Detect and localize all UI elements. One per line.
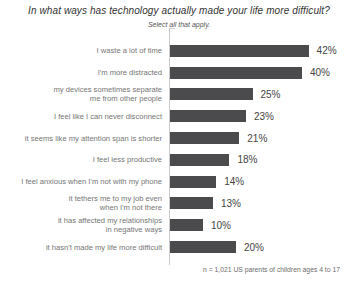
- value-label: 21%: [247, 133, 267, 144]
- bar-wrap: 40%: [170, 67, 358, 79]
- sample-size-footnote: n = 1,021 US parents of children ages 4 …: [0, 266, 340, 273]
- bar: [170, 88, 253, 100]
- value-label: 42%: [317, 45, 337, 56]
- bar-wrap: 13%: [170, 197, 358, 209]
- value-label: 10%: [211, 220, 231, 231]
- chart-row: I'm more distracted 40%: [0, 62, 358, 84]
- category-label: I feel less productive: [0, 155, 170, 164]
- bar: [170, 197, 213, 209]
- category-label: it seems like my attention span is short…: [0, 134, 170, 143]
- value-label: 14%: [224, 176, 244, 187]
- chart-row: it hasn't made my life more difficult 20…: [0, 236, 358, 258]
- chart-page: In what ways has technology actually mad…: [0, 0, 358, 294]
- chart-row: I waste a lot of time 42%: [0, 40, 358, 62]
- bar-wrap: 42%: [170, 45, 358, 57]
- value-label: 20%: [244, 242, 264, 253]
- bar-wrap: 18%: [170, 154, 358, 166]
- chart-subtitle: Select all that apply.: [0, 21, 358, 28]
- chart-row: I feel anxious when I'm not with my phon…: [0, 171, 358, 193]
- bar: [170, 154, 229, 166]
- category-label: I feel anxious when I'm not with my phon…: [0, 177, 170, 186]
- bar: [170, 176, 216, 188]
- category-label: it tethers me to my job even when I'm no…: [0, 194, 170, 212]
- bar: [170, 132, 239, 144]
- category-label: I waste a lot of time: [0, 46, 170, 55]
- bar-wrap: 23%: [170, 110, 358, 122]
- bar: [170, 67, 302, 79]
- bar-wrap: 10%: [170, 219, 358, 231]
- bar: [170, 110, 246, 122]
- bar: [170, 241, 236, 253]
- bar-wrap: 25%: [170, 88, 358, 100]
- chart-row: my devices sometimes separate me from ot…: [0, 84, 358, 106]
- chart-title: In what ways has technology actually mad…: [0, 5, 358, 16]
- category-label: I feel like I can never disconnect: [0, 112, 170, 121]
- value-label: 13%: [221, 198, 241, 209]
- chart-row: it has affected my relationships in nega…: [0, 214, 358, 236]
- chart-row: it seems like my attention span is short…: [0, 127, 358, 149]
- category-label: I'm more distracted: [0, 68, 170, 77]
- chart-row: it tethers me to my job even when I'm no…: [0, 193, 358, 215]
- category-label: my devices sometimes separate me from ot…: [0, 85, 170, 103]
- bar-chart: I waste a lot of time 42% I'm more distr…: [0, 40, 358, 258]
- value-label: 18%: [237, 154, 257, 165]
- chart-row: I feel less productive 18%: [0, 149, 358, 171]
- bar-wrap: 14%: [170, 176, 358, 188]
- bar-wrap: 21%: [170, 132, 358, 144]
- chart-row: I feel like I can never disconnect 23%: [0, 105, 358, 127]
- bar-wrap: 20%: [170, 241, 358, 253]
- chart-rows: I waste a lot of time 42% I'm more distr…: [0, 40, 358, 258]
- bar: [170, 45, 309, 57]
- bar: [170, 219, 203, 231]
- value-label: 40%: [310, 67, 330, 78]
- category-label: it hasn't made my life more difficult: [0, 243, 170, 252]
- category-label: it has affected my relationships in nega…: [0, 216, 170, 234]
- value-label: 23%: [254, 111, 274, 122]
- value-label: 25%: [261, 89, 281, 100]
